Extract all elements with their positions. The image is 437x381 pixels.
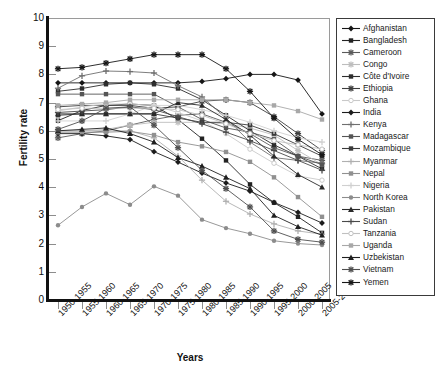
data-point-square	[56, 103, 60, 107]
legend-item: Congo	[340, 58, 432, 70]
legend-item: Pakistan	[340, 203, 432, 215]
data-point-plus	[271, 221, 277, 227]
y-tick-label: 3	[22, 210, 44, 220]
data-point-cross	[79, 118, 85, 124]
data-point-circle-open	[248, 131, 252, 135]
data-point-diamond	[295, 209, 301, 215]
y-tick-label: 1	[22, 267, 44, 277]
data-point-diamond	[271, 72, 277, 78]
data-point-circle	[349, 195, 353, 199]
legend-item: Madagascar	[340, 131, 432, 143]
data-point-square	[349, 244, 353, 248]
legend-label: Pakistan	[362, 204, 395, 215]
legend-item: Bangladesh	[340, 34, 432, 46]
data-point-square	[224, 150, 228, 154]
data-point-diamond	[348, 110, 354, 116]
y-tick-label: 4	[22, 182, 44, 192]
legend-marker-cross-icon	[340, 47, 362, 58]
data-point-cross	[319, 152, 325, 158]
data-point-cross	[79, 64, 85, 70]
data-point-plus	[348, 182, 354, 188]
y-tick-label: 9	[22, 41, 44, 51]
data-point-square	[320, 117, 324, 121]
legend-marker-circle-open-icon	[340, 228, 362, 239]
data-point-square	[80, 86, 84, 90]
data-point-cross	[348, 61, 354, 67]
data-point-cross	[295, 147, 301, 153]
data-point-triangle	[295, 224, 301, 229]
legend-item: Nepal	[340, 167, 432, 179]
data-point-circle-open	[272, 161, 276, 165]
data-point-circle	[224, 226, 228, 230]
legend-item: Kenya	[340, 119, 432, 131]
legend-item: Afghanistan	[340, 22, 432, 34]
legend-label: Afghanistan	[362, 23, 407, 34]
data-point-square	[349, 38, 353, 42]
data-point-square	[104, 130, 108, 134]
data-point-cross	[199, 167, 205, 173]
legend-label: Bangladesh	[362, 35, 407, 46]
legend-marker-cross-icon	[340, 264, 362, 275]
legend-label: Ethiopia	[362, 83, 393, 94]
data-point-square	[296, 215, 300, 219]
legend: AfghanistanBangladeshCameroonCongoCôte d…	[336, 18, 435, 296]
legend-label: Mozambique	[362, 143, 411, 154]
legend-marker-square-icon	[340, 35, 362, 46]
legend-marker-plus-icon	[340, 119, 362, 130]
data-point-cross	[348, 279, 354, 285]
data-point-cross	[247, 204, 253, 210]
legend-item: Uganda	[340, 240, 432, 252]
data-point-square	[349, 147, 353, 151]
y-tick-mark	[49, 74, 56, 75]
data-point-square	[349, 74, 353, 78]
legend-item: Yemen	[340, 276, 432, 288]
data-point-triangle	[175, 155, 181, 160]
y-tick-label: 8	[22, 69, 44, 79]
legend-label: Sudan	[362, 216, 387, 227]
y-tick-mark	[49, 215, 56, 216]
y-tick-label: 2	[22, 239, 44, 249]
data-point-circle	[128, 202, 132, 206]
legend-marker-diamond-icon	[340, 107, 362, 118]
data-point-circle-open	[248, 147, 252, 151]
data-point-diamond	[151, 149, 157, 155]
legend-item: Myanmar	[340, 155, 432, 167]
data-point-square	[296, 195, 300, 199]
data-point-cross	[271, 228, 277, 234]
data-point-diamond	[79, 80, 85, 86]
legend-marker-square-icon	[340, 240, 362, 251]
data-point-square	[128, 92, 132, 96]
data-point-square	[349, 171, 353, 175]
data-point-circle	[80, 205, 84, 209]
data-point-cross	[348, 49, 354, 55]
y-axis-title: Fertility rate	[18, 93, 29, 183]
data-point-circle-open	[80, 106, 84, 110]
legend-marker-diamond-icon	[340, 23, 362, 34]
fertility-rate-chart: 012345678910 Fertility rate 1950-1955195…	[0, 0, 437, 381]
y-tick-mark	[49, 272, 56, 273]
legend-item: Sudan	[340, 216, 432, 228]
data-point-square	[176, 140, 180, 144]
legend-label: Uganda	[362, 240, 392, 251]
legend-label: Nepal	[362, 168, 385, 179]
series-vietnam	[55, 104, 325, 246]
legend-label: Côte d'Ivoire	[362, 71, 409, 82]
legend-item: Tanzania	[340, 228, 432, 240]
data-point-square	[128, 81, 132, 85]
data-point-cross	[223, 186, 229, 192]
data-point-square	[320, 215, 324, 219]
y-tick-mark	[49, 131, 56, 132]
data-point-plus	[348, 122, 354, 128]
data-point-circle-open	[296, 143, 300, 147]
legend-marker-square-icon	[340, 143, 362, 154]
data-point-circle	[200, 217, 204, 221]
data-point-cross	[55, 66, 61, 72]
data-point-cross	[199, 52, 205, 58]
data-point-square	[80, 102, 84, 106]
data-point-cross	[348, 85, 354, 91]
data-point-diamond	[127, 137, 133, 143]
data-point-square	[104, 92, 108, 96]
legend-marker-square-icon	[340, 71, 362, 82]
data-point-circle-open	[152, 106, 156, 110]
legend-label: India	[362, 107, 381, 118]
